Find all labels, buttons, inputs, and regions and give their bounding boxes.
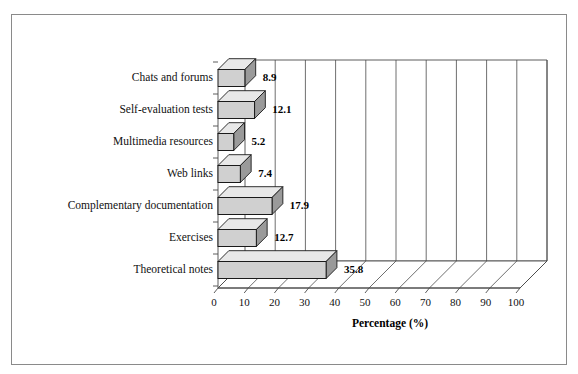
x-axis-tick [395,288,399,293]
x-axis-tick [456,288,460,293]
bar-7 [218,251,337,279]
bar-5 [218,187,283,215]
x-axis-tick [425,288,429,293]
category-label-3: Multimedia resources [0,135,213,147]
x-axis-tick [244,288,248,293]
category-label-7: Theoretical notes [0,263,213,275]
category-label-4: Web links [0,167,213,179]
x-axis-tick [274,288,278,293]
bar-3 [218,123,245,151]
category-label-1: Chats and forums [0,71,213,83]
category-label-6: Exercises [0,231,213,243]
x-axis-tick [516,288,520,293]
chart-svg [0,0,578,374]
category-label-2: Self-evaluation tests [0,103,213,115]
bar-value-label-4: 7.4 [258,168,272,179]
x-tick-label-11: 100 [496,296,536,308]
category-label-5: Complementary documentation [0,199,213,211]
x-axis-tick [305,288,309,293]
bar-value-label-5: 17.9 [290,200,309,211]
bar-value-label-7: 35.8 [344,264,363,275]
x-axis-tick [335,288,339,293]
x-axis-tick [486,288,490,293]
bar-2 [218,91,265,119]
bar-6 [218,219,267,247]
bar-value-label-2: 12.1 [272,104,291,115]
bar-value-label-3: 5.2 [252,136,266,147]
x-axis-tick [365,288,369,293]
x-axis-title: Percentage (%) [290,317,490,329]
bar-chart-figure [0,0,578,374]
x-axis-tick [214,288,218,293]
bar-value-label-6: 12.7 [274,232,293,243]
bar-value-label-1: 8.9 [263,72,277,83]
